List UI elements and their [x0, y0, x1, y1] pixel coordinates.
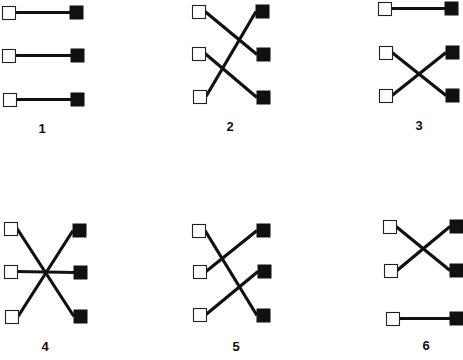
filled-square-node — [257, 309, 270, 322]
connection-line — [205, 12, 257, 55]
filled-square-node — [257, 224, 270, 237]
open-square-node — [3, 7, 16, 20]
open-square-node — [385, 265, 398, 278]
panel-number-label: 1 — [38, 121, 45, 136]
open-square-node — [5, 266, 18, 279]
filled-square-node — [256, 5, 269, 18]
diagram-panel-6: 6 — [384, 220, 463, 353]
open-square-node — [194, 266, 207, 279]
diagram-panel-5: 5 — [193, 224, 272, 354]
open-square-node — [384, 221, 397, 234]
open-square-node — [379, 3, 392, 16]
filled-square-node — [450, 312, 463, 325]
filled-square-node — [257, 91, 270, 104]
panel-number-label: 4 — [41, 339, 49, 354]
filled-square-node — [445, 2, 458, 15]
filled-square-node — [74, 266, 87, 279]
filled-square-node — [70, 6, 83, 19]
filled-square-node — [446, 89, 459, 102]
open-square-node — [380, 47, 393, 60]
open-square-node — [193, 225, 206, 238]
open-square-node — [5, 223, 18, 236]
open-square-node — [4, 94, 17, 107]
filled-square-node — [257, 48, 270, 61]
diagram-panel-1: 1 — [3, 6, 85, 136]
open-square-node — [193, 6, 206, 19]
panel-number-label: 5 — [232, 339, 239, 354]
connection-line — [205, 54, 257, 98]
connection-line — [205, 231, 257, 316]
filled-square-node — [71, 49, 84, 62]
filled-square-node — [71, 93, 84, 106]
filled-square-node — [73, 224, 86, 237]
diagram-panel-3: 3 — [379, 2, 460, 133]
open-square-node — [387, 313, 400, 326]
diagram-panel-2: 2 — [193, 5, 271, 134]
open-square-node — [3, 50, 16, 63]
open-square-node — [194, 309, 207, 322]
connection-line — [206, 12, 256, 97]
connection-line — [206, 272, 258, 315]
filled-square-node — [74, 310, 87, 323]
diagram-panel-4: 4 — [5, 223, 88, 355]
filled-square-node — [450, 220, 463, 233]
open-square-node — [194, 91, 207, 104]
pairing-diagrams-figure: 123456 — [0, 0, 463, 360]
filled-square-node — [446, 46, 459, 59]
open-square-node — [380, 90, 393, 103]
connection-line — [206, 231, 257, 272]
filled-square-node — [450, 264, 463, 277]
open-square-node — [6, 311, 19, 324]
open-square-node — [193, 48, 206, 61]
panel-number-label: 6 — [422, 338, 429, 353]
filled-square-node — [258, 265, 271, 278]
panel-number-label: 3 — [415, 118, 422, 133]
panel-number-label: 2 — [226, 119, 233, 134]
